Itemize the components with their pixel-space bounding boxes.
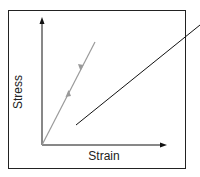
unloading-arrow-icon: [78, 64, 84, 71]
y-axis-label: Stress: [11, 75, 25, 109]
x-axis-label: Strain: [88, 149, 119, 163]
y-axis-arrow-icon: [40, 17, 45, 24]
leader-line: [76, 25, 200, 125]
x-axis-arrow-icon: [160, 143, 167, 148]
